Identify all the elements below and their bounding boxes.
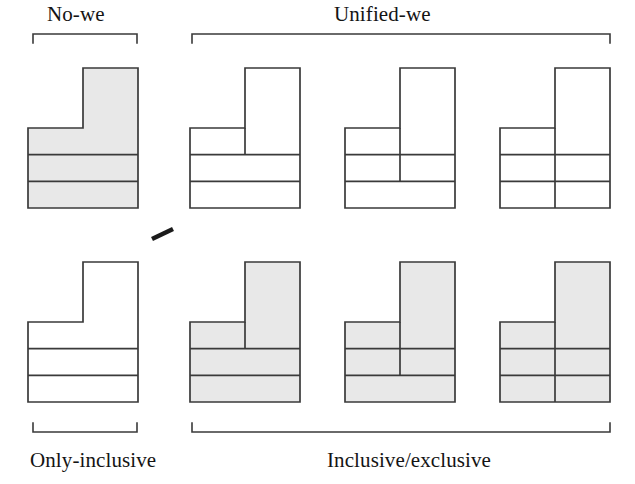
bracket-only-inclusive-path bbox=[33, 423, 137, 432]
group-label-inclusive-exclusive: Inclusive/exclusive bbox=[327, 448, 491, 473]
shape-body-r1c1 bbox=[28, 68, 138, 208]
group-label-unified-we: Unified-we bbox=[334, 2, 431, 27]
shape-r1c4[interactable] bbox=[500, 68, 610, 208]
shape-r1c1[interactable] bbox=[28, 68, 138, 208]
we-typology-diagram bbox=[0, 0, 635, 484]
row-separator-tick bbox=[152, 229, 173, 239]
shape-r2c1[interactable] bbox=[28, 262, 138, 402]
shape-body-r2c1 bbox=[28, 262, 138, 402]
bracket-inclusive-exclusive bbox=[192, 423, 610, 432]
shape-r1c3[interactable] bbox=[345, 68, 455, 208]
bracket-unified-we bbox=[192, 34, 610, 43]
shape-r1c2[interactable] bbox=[190, 68, 300, 208]
bracket-unified-we-path bbox=[192, 34, 610, 43]
bracket-no-we bbox=[33, 34, 137, 43]
shape-r2c4[interactable] bbox=[500, 262, 610, 402]
group-label-only-inclusive: Only-inclusive bbox=[30, 448, 156, 473]
group-label-no-we: No-we bbox=[47, 2, 105, 27]
shape-r2c3[interactable] bbox=[345, 262, 455, 402]
bracket-only-inclusive bbox=[33, 423, 137, 432]
bracket-inclusive-exclusive-path bbox=[192, 423, 610, 432]
bracket-no-we-path bbox=[33, 34, 137, 43]
shape-r2c2[interactable] bbox=[190, 262, 300, 402]
